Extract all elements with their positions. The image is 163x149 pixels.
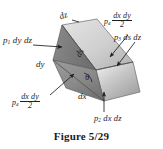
label-p2-dx-dz: p2 dx dz: [94, 114, 122, 123]
label-p4-top-subscript: 4: [108, 21, 111, 26]
label-p4-top-denominator: 2: [112, 21, 132, 29]
figure-caption: Figure 5/29: [0, 130, 163, 142]
label-theta: θ: [85, 73, 90, 82]
label-p2-terms: dx dz: [103, 113, 121, 123]
label-dx: dx: [78, 92, 87, 101]
label-p2-subscript: 2: [98, 117, 101, 123]
label-p4-bottom-denominator: 2: [20, 102, 40, 110]
label-p1-dy-dz: p1 dy dz: [3, 36, 32, 46]
label-p4-top: p4dx dy2: [104, 12, 132, 29]
label-p4-bottom-subscript: 4: [16, 102, 19, 107]
label-p4-bottom-fraction: dx dy2: [20, 93, 40, 110]
label-p4-top-fraction: dx dy2: [112, 12, 132, 29]
label-p1-terms: dy dz: [13, 35, 32, 45]
figure-illustration: [0, 0, 163, 149]
label-p3-ds-dz: p3 ds dz: [114, 33, 141, 42]
label-p4-bottom: p4dx dy2: [12, 93, 40, 110]
label-p3-terms: ds dz: [123, 32, 141, 42]
leader-dz: [72, 20, 79, 22]
label-dy: dy: [36, 60, 45, 69]
label-p3-subscript: 3: [118, 36, 121, 42]
label-p1-subscript: 1: [8, 39, 11, 45]
